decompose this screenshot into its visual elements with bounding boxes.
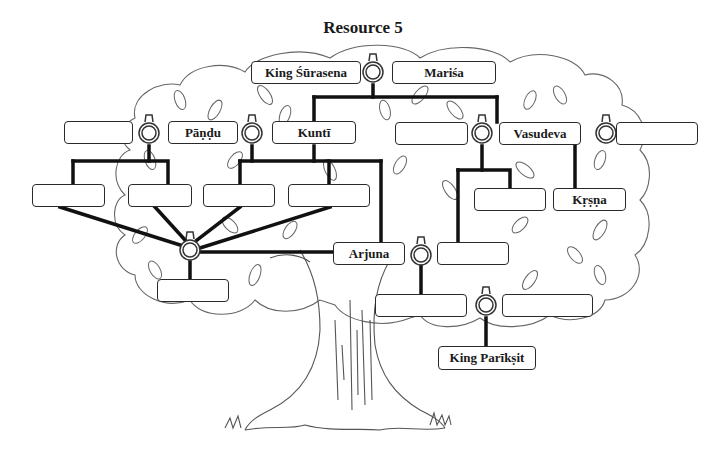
- node-pandu-spouse-blank[interactable]: [64, 121, 133, 144]
- node-vasudeva-spouse-left-blank[interactable]: [395, 122, 468, 145]
- node-krsna: Kṛṣṇa: [553, 188, 626, 211]
- family-tree-diagram: Resource 5 King Śūrasena Mariśa Pāṇḍu Ku…: [0, 0, 726, 466]
- node-arjuna-spouse-blank[interactable]: [437, 242, 509, 265]
- wedding-ring-icon-pandu-kunti: [242, 115, 262, 143]
- node-abhimanyu-blank[interactable]: [375, 294, 467, 317]
- node-marisa: Mariśa: [392, 61, 496, 84]
- node-king-pariksit: King Parīkṣit: [438, 346, 536, 370]
- connector-lines: [0, 0, 726, 466]
- node-vasudeva-child-blank[interactable]: [474, 188, 546, 211]
- node-pandava-2-blank[interactable]: [128, 184, 192, 207]
- wedding-ring-icon-arjuna: [411, 237, 431, 265]
- node-king-surasena: King Śūrasena: [251, 61, 361, 84]
- node-kunti: Kuntī: [272, 121, 356, 144]
- wedding-ring-icon-abhimanyu: [476, 287, 496, 315]
- page-title: Resource 5: [0, 18, 726, 38]
- wedding-ring-icon-pandu-spouse: [139, 115, 159, 143]
- wedding-ring-icon-vasudeva-left: [472, 115, 492, 143]
- node-pandava-1-blank[interactable]: [32, 184, 105, 207]
- node-abhimanyu-spouse-blank[interactable]: [502, 294, 593, 317]
- node-arjuna: Arjuna: [333, 242, 405, 265]
- node-pandava-4-blank[interactable]: [288, 184, 370, 207]
- node-pandava-3-blank[interactable]: [203, 184, 275, 207]
- node-draupadi-child-blank[interactable]: [157, 279, 229, 302]
- node-vasudeva: Vasudeva: [499, 122, 581, 145]
- node-vasudeva-spouse-right-blank[interactable]: [616, 122, 698, 145]
- wedding-ring-icon-vasudeva-right: [596, 115, 616, 143]
- node-pandu: Pāṇḍu: [168, 121, 238, 144]
- wedding-ring-icon-surasena: [363, 54, 383, 82]
